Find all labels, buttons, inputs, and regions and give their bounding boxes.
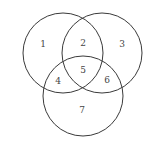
region-label-3: 3 <box>119 39 125 49</box>
region-label-5: 5 <box>80 65 86 75</box>
region-label-7: 7 <box>79 105 85 115</box>
region-label-6: 6 <box>104 75 110 85</box>
circle-top-left <box>23 13 103 93</box>
region-label-1: 1 <box>40 39 46 49</box>
venn-diagram: 1 2 3 4 5 6 7 <box>0 0 152 145</box>
region-label-4: 4 <box>55 76 61 86</box>
circle-top-right <box>62 13 142 93</box>
region-label-2: 2 <box>80 38 86 48</box>
